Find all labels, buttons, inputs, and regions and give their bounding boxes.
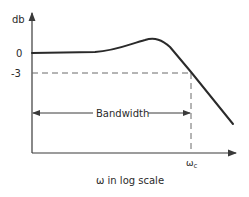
y-tick-0: 0 [16,48,22,59]
bode-diagram: db 0 -3 Bandwidth ωc ω in log scale [0,0,249,197]
x-axis-label: ω in log scale [96,175,164,186]
y-axis-label: db [12,14,25,25]
y-tick-minus3: -3 [11,68,21,79]
cutoff-omega: ω [186,158,194,168]
cutoff-label: ωc [186,158,198,170]
bandwidth-label: Bandwidth [96,108,149,119]
cutoff-subscript: c [194,162,198,170]
